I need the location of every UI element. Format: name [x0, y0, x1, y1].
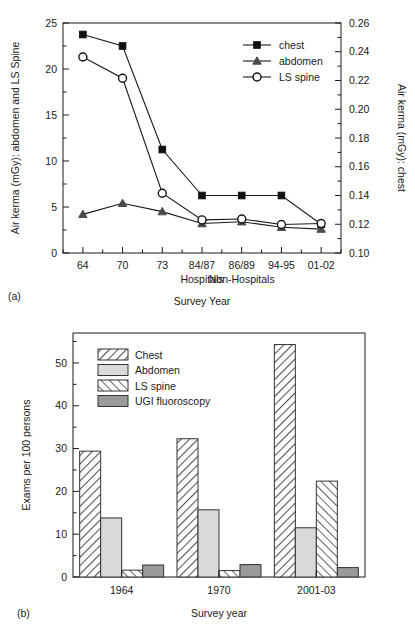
panel-a-xtick-label: 01-02 — [308, 259, 335, 271]
panel-a-xtick-label: 70 — [117, 259, 129, 271]
panel-b-legend-item-UGI-fluoroscopy: UGI fluoroscopy — [98, 395, 211, 407]
panel-a-x-axis-title: Survey Year — [174, 295, 231, 307]
panel-a-y2tick-label: 0.26 — [349, 17, 370, 29]
marker-open-circle — [253, 73, 261, 81]
panel-b-bar-1964-LS-spine — [122, 570, 143, 577]
panel-a-y2tick-label: 0.12 — [349, 218, 370, 230]
panel-a-y2tick-label: 0.10 — [349, 247, 370, 259]
panel-a-ytick-label: 0 — [51, 247, 57, 259]
panel-a-legend-label: abdomen — [279, 55, 323, 67]
panel-a-xtick-label: 94-95 — [268, 259, 295, 271]
panel-a-ytick-label: 10 — [45, 155, 57, 167]
panel-a-xtick-label: 64 — [77, 259, 89, 271]
marker-filled-square — [278, 192, 285, 199]
panel-a-legend-label: chest — [279, 39, 304, 51]
panel-a-group-label: Non-Hospitals — [209, 273, 275, 285]
panel-b-xtick-label: 1970 — [207, 584, 231, 596]
panel-b-x-axis-title: Survey year — [191, 607, 248, 619]
panel-a-y2tick-label: 0.14 — [349, 189, 370, 201]
panel-b-legend-item-Abdomen: Abdomen — [98, 364, 180, 376]
panel-b-xtick-label: 2001-03 — [297, 584, 336, 596]
panel-a-y2tick-label: 0.20 — [349, 103, 370, 115]
panel-b-bar-1964-Chest — [80, 451, 101, 577]
panel-b-ytick-label: 10 — [55, 528, 67, 540]
panel-b-xtick-label: 1964 — [110, 584, 134, 596]
panel-b-bar-1970-LS-spine — [219, 571, 240, 577]
panel-a-y2tick-label: 0.24 — [349, 45, 370, 57]
panel-a-y2tick-label: 0.18 — [349, 132, 370, 144]
panel-a-xtick-label: 73 — [156, 259, 168, 271]
marker-filled-square — [159, 146, 166, 153]
figure-svg: 05101520250.100.120.140.160.180.200.220.… — [0, 0, 415, 640]
panel-b-ytick-label: 20 — [55, 485, 67, 497]
figure-container: 05101520250.100.120.140.160.180.200.220.… — [0, 0, 415, 640]
legend-swatch — [98, 349, 128, 360]
panel-b-y-axis-title: Exams per 100 persons — [20, 400, 32, 511]
panel-a-ytick-label: 5 — [51, 201, 57, 213]
marker-filled-square — [254, 42, 261, 49]
panel-a-y2-axis-title: Air kerma (mGy): chest — [396, 84, 408, 192]
panel-b-bar-2001-03-LS-spine — [316, 481, 337, 577]
panel-b-bar-1970-Chest — [177, 439, 198, 577]
marker-open-circle — [119, 74, 127, 82]
panel-a-ytick-label: 15 — [45, 109, 57, 121]
panel-a-ytick-label: 20 — [45, 63, 57, 75]
panel-a-legend-label: LS spine — [279, 71, 320, 83]
panel-a-xtick-label: 84/87 — [189, 259, 215, 271]
panel-b-ytick-label: 0 — [61, 571, 67, 583]
panel-a-caption: (a) — [8, 290, 21, 302]
panel-b-bar-2001-03-UGI-fluoroscopy — [337, 568, 358, 577]
panel-a-xtick-label: 86/89 — [229, 259, 255, 271]
panel-b-legend-label: LS spine — [135, 380, 176, 392]
panel-a-y2tick-label: 0.16 — [349, 160, 370, 172]
panel-b-legend-label: Chest — [135, 349, 163, 361]
marker-filled-square — [238, 192, 245, 199]
marker-open-circle — [277, 220, 285, 228]
legend-swatch — [98, 380, 128, 391]
marker-open-circle — [198, 216, 206, 224]
panel-b-bar-2001-03-Chest — [274, 345, 295, 577]
panel-b-legend-label: UGI fluoroscopy — [135, 395, 211, 407]
marker-open-circle — [238, 215, 246, 223]
marker-open-circle — [158, 189, 166, 197]
marker-filled-square — [119, 43, 126, 50]
legend-swatch — [98, 365, 128, 376]
panel-b-ytick-label: 50 — [55, 357, 67, 369]
panel-b-legend-label: Abdomen — [135, 364, 180, 376]
legend-swatch — [98, 396, 128, 407]
panel-b-bar-1970-UGI-fluoroscopy — [240, 565, 261, 577]
panel-b-bar-2001-03-Abdomen — [295, 528, 316, 577]
panel-b-bar-1964-Abdomen — [101, 518, 122, 577]
marker-open-circle — [79, 53, 87, 61]
panel-b-ytick-label: 30 — [55, 442, 67, 454]
panel-b-bar-1970-Abdomen — [198, 510, 219, 577]
panel-b-ytick-label: 40 — [55, 399, 67, 411]
panel-a-y2tick-label: 0.22 — [349, 74, 370, 86]
panel-b-caption: (b) — [17, 607, 30, 619]
panel-a-ytick-label: 25 — [45, 17, 57, 29]
panel-b-bar-1964-UGI-fluoroscopy — [143, 565, 164, 577]
marker-filled-square — [199, 192, 206, 199]
panel-b-legend-item-LS-spine: LS spine — [98, 380, 176, 392]
marker-filled-square — [80, 31, 87, 38]
panel-a-y-axis-title: Air kerma (mGy): abdomen and LS Spine — [9, 42, 21, 235]
marker-open-circle — [317, 220, 325, 228]
